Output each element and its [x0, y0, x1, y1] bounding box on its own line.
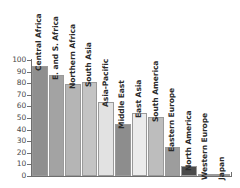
- chart-screenshot: 0102030405060708090100 Central AfricaE. …: [0, 0, 240, 188]
- y-axis-tick: [27, 60, 32, 61]
- bar-category-label: Middle East: [118, 80, 126, 129]
- y-axis-tick-label: 20: [17, 149, 26, 157]
- y-axis-tick-label: 70: [17, 91, 26, 99]
- y-axis-tick-label: 0: [21, 172, 26, 180]
- x-axis-end-cap: [231, 172, 232, 177]
- bar-category-label: East Asia: [135, 80, 143, 118]
- bar: [132, 113, 148, 176]
- y-axis-tick-label: 50: [17, 114, 26, 122]
- y-axis-tick-label: 60: [17, 102, 26, 110]
- bar: [82, 82, 98, 176]
- bar: [32, 66, 48, 176]
- bar: [148, 117, 164, 176]
- y-axis-tick-label: 10: [17, 160, 26, 168]
- bar-category-label: Asia-Pacific: [102, 59, 110, 107]
- y-axis-tick-label: 30: [17, 137, 26, 145]
- bar-category-label: Northern Africa: [69, 24, 77, 89]
- y-axis-tick-label: 100: [12, 56, 26, 64]
- bar-category-label: South Asia: [85, 42, 93, 87]
- y-axis-tick-label: 40: [17, 126, 26, 134]
- bar-category-label: Western Europe: [201, 113, 209, 180]
- bar-category-label: Central Africa: [35, 13, 43, 71]
- y-axis-tick-label: 90: [17, 68, 26, 76]
- bar-category-label: North America: [185, 110, 193, 171]
- y-axis-tick-label: 80: [17, 79, 26, 87]
- bar-category-label: Japan: [218, 156, 226, 179]
- bar-category-label: South America: [152, 60, 160, 121]
- bar-category-label: Eastern Europe: [168, 88, 176, 152]
- bar: [115, 124, 131, 176]
- bar-category-label: E. and S. Africa: [52, 16, 60, 80]
- bar: [65, 84, 81, 176]
- bar: [98, 102, 114, 176]
- bar-chart: 0102030405060708090100 Central AfricaE. …: [0, 0, 240, 188]
- bar: [49, 75, 65, 176]
- y-axis-tick: [27, 176, 32, 177]
